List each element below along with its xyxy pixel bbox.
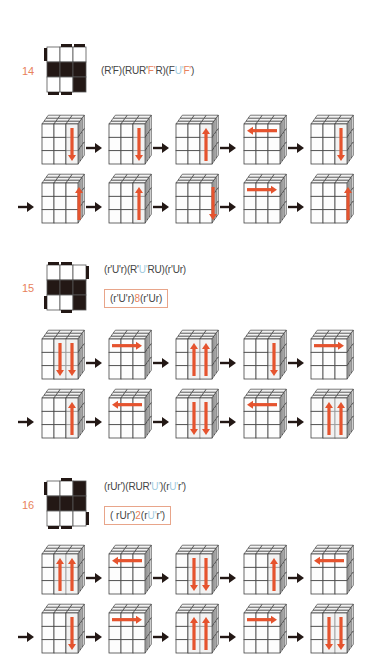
formula-segment: r') <box>178 481 186 492</box>
algorithm-formula: (rUr')(RUR'U')(rU'r') <box>104 481 186 492</box>
formula-segment: RU)(r'Ur) <box>148 264 186 275</box>
oll-pattern-icon <box>42 261 92 315</box>
cube-step-top-row-left-icon <box>105 543 155 599</box>
next-step-arrow-icon <box>153 354 169 364</box>
cube-step-right-edge-down-icon <box>172 172 222 228</box>
cube-step-right-edge-up-icon <box>38 172 88 228</box>
oll-pattern-icon <box>42 43 92 97</box>
next-step-arrow-icon <box>18 628 34 638</box>
next-step-arrow-icon <box>288 354 304 364</box>
cube-step-right-col-down-icon <box>105 113 155 169</box>
next-step-arrow-icon <box>220 569 236 579</box>
cube-step-top-row-right-icon <box>307 328 357 384</box>
move-row <box>0 387 379 443</box>
formula-segment: F' <box>183 65 191 76</box>
move-row <box>0 328 379 384</box>
next-step-arrow-icon <box>220 354 236 364</box>
next-step-arrow-icon <box>86 413 102 423</box>
next-step-arrow-icon <box>86 354 102 364</box>
formula-segment: (R'F)(RUR' <box>101 65 148 76</box>
cube-step-top-row-right-icon <box>240 172 290 228</box>
move-row <box>0 602 379 654</box>
cube-step-two-cols-down-icon <box>172 387 222 443</box>
cube-step-right-col-up-icon <box>105 172 155 228</box>
cube-step-right-col-up-icon <box>240 543 290 599</box>
algorithm-formula: (r'U'r)(R'U'RU)(r'Ur) <box>104 264 186 275</box>
move-row <box>0 172 379 228</box>
next-step-arrow-icon <box>153 628 169 638</box>
next-step-arrow-icon <box>153 139 169 149</box>
formula-segment: (rUr')(RUR' <box>104 481 151 492</box>
formula-segment: ( rUr') <box>110 510 135 521</box>
cube-step-right-col-down-icon <box>38 113 88 169</box>
cube-step-top-row-right-icon <box>105 328 155 384</box>
cube-step-right-col-up-icon <box>38 387 88 443</box>
next-step-arrow-icon <box>18 198 34 208</box>
cube-step-two-cols-down-icon <box>307 602 357 654</box>
formula-segment: U' <box>147 510 156 521</box>
move-row <box>0 543 379 599</box>
formula-segment: U' <box>151 481 160 492</box>
next-step-arrow-icon <box>86 569 102 579</box>
cube-step-top-row-left-icon <box>307 543 357 599</box>
cube-step-two-cols-up-icon <box>307 387 357 443</box>
cube-step-right-col-down-icon <box>38 602 88 654</box>
next-step-arrow-icon <box>153 569 169 579</box>
next-step-arrow-icon <box>153 413 169 423</box>
oll-pattern-icon <box>42 477 92 531</box>
algorithm-formula: (R'F)(RUR'F'R)(FU'F') <box>101 65 194 76</box>
short-formula-box: (r'U'r)8(r'Ur) <box>104 289 168 308</box>
cube-step-top-row-left-icon <box>240 113 290 169</box>
next-step-arrow-icon <box>86 139 102 149</box>
formula-segment: ) <box>191 65 194 76</box>
next-step-arrow-icon <box>86 198 102 208</box>
cube-step-two-cols-down-icon <box>172 543 222 599</box>
next-step-arrow-icon <box>153 198 169 208</box>
cube-step-top-row-right-icon <box>240 602 290 654</box>
formula-segment: (r'Ur) <box>140 293 162 304</box>
case-number: 16 <box>22 499 34 511</box>
cube-step-right-col-down-icon <box>240 328 290 384</box>
cube-step-two-cols-up-icon <box>172 328 222 384</box>
formula-segment: (r'U'r)(R' <box>104 264 139 275</box>
next-step-arrow-icon <box>220 198 236 208</box>
cube-step-top-row-left-icon <box>240 387 290 443</box>
next-step-arrow-icon <box>220 139 236 149</box>
cube-step-two-cols-up-icon <box>172 602 222 654</box>
cube-step-right-edge-up-icon <box>307 172 357 228</box>
formula-segment: R)(F <box>155 65 174 76</box>
cube-step-two-cols-down-icon <box>38 328 88 384</box>
next-step-arrow-icon <box>18 413 34 423</box>
move-row <box>0 113 379 169</box>
formula-segment: r') <box>157 510 166 521</box>
case-number: 14 <box>22 65 34 77</box>
next-step-arrow-icon <box>288 198 304 208</box>
next-step-arrow-icon <box>288 569 304 579</box>
next-step-arrow-icon <box>288 413 304 423</box>
cube-step-top-row-right-icon <box>105 602 155 654</box>
formula-segment: )(r <box>160 481 169 492</box>
cube-step-top-row-left-icon <box>105 387 155 443</box>
cube-step-right-col-up-icon <box>172 113 222 169</box>
cube-step-two-cols-up-icon <box>38 543 88 599</box>
next-step-arrow-icon <box>288 139 304 149</box>
next-step-arrow-icon <box>220 628 236 638</box>
next-step-arrow-icon <box>220 413 236 423</box>
cube-step-right-col-down-icon <box>307 113 357 169</box>
case-number: 15 <box>22 282 34 294</box>
next-step-arrow-icon <box>86 628 102 638</box>
formula-segment: U' <box>169 481 178 492</box>
formula-segment: (r'U'r) <box>110 293 134 304</box>
formula-segment: U' <box>139 264 148 275</box>
short-formula-box: ( rUr')2(rU'r') <box>104 506 171 525</box>
next-step-arrow-icon <box>288 628 304 638</box>
